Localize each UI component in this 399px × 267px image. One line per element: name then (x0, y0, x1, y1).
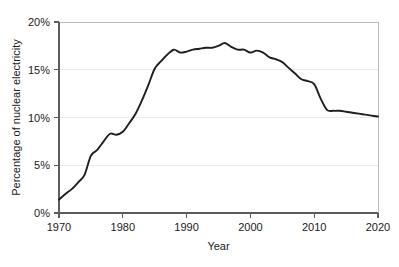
y-axis-tick-labels: 0% 5% 10% 15% 20% (28, 16, 50, 219)
x-axis-title: Year (207, 240, 230, 252)
x-axis-ticks (59, 213, 378, 218)
x-axis-tick-labels: 1970 1980 1990 2000 2010 2020 (47, 221, 390, 233)
x-tick-label-2000: 2000 (238, 221, 262, 233)
line-chart: 0% 5% 10% 15% 20% 1970 1980 1990 2000 20… (0, 0, 399, 267)
y-axis-ticks (54, 22, 59, 213)
x-tick-label-2010: 2010 (302, 221, 326, 233)
y-axis-title: Percentage of nuclear electricity (10, 39, 22, 196)
y-tick-label-15: 15% (28, 64, 50, 76)
y-tick-label-5: 5% (34, 159, 50, 171)
y-tick-label-10: 10% (28, 112, 50, 124)
x-tick-label-1990: 1990 (174, 221, 198, 233)
y-tick-label-0: 0% (34, 207, 50, 219)
y-tick-label-20: 20% (28, 16, 50, 28)
x-tick-label-2020: 2020 (366, 221, 390, 233)
x-tick-label-1980: 1980 (111, 221, 135, 233)
chart-figure: 0% 5% 10% 15% 20% 1970 1980 1990 2000 20… (0, 0, 399, 267)
x-tick-label-1970: 1970 (47, 221, 71, 233)
